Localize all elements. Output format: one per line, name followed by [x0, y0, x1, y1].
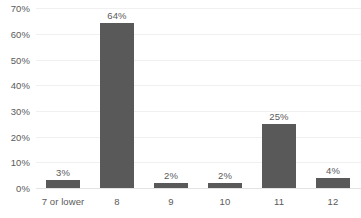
bar-value-label: 64%: [107, 10, 126, 21]
x-axis-category-label: 9: [168, 196, 173, 207]
bar[interactable]: [154, 183, 188, 188]
y-axis-tick-label: 20%: [11, 132, 30, 143]
x-axis-category-label: 11: [274, 196, 284, 207]
y-axis-tick-label: 60%: [11, 29, 30, 40]
bar-value-label: 2%: [164, 170, 178, 181]
x-axis-category-label: 7 or lower: [42, 196, 85, 207]
y-axis: 70% 60% 50% 40% 30% 20% 10% 0%: [0, 0, 34, 218]
bar-group: 64% 8: [90, 0, 144, 218]
bar[interactable]: [316, 178, 350, 188]
bar-group: 25% 11: [252, 0, 306, 218]
x-axis-category-label: 12: [328, 196, 339, 207]
bar-value-label: 2%: [218, 170, 232, 181]
bar[interactable]: [46, 180, 80, 188]
bar-chart: 70% 60% 50% 40% 30% 20% 10% 0% 3% 7 or l…: [0, 0, 361, 218]
bar-group: 3% 7 or lower: [36, 0, 90, 218]
y-axis-tick-label: 70%: [11, 3, 30, 14]
y-axis-tick-label: 40%: [11, 80, 30, 91]
bar-group: 2% 10: [198, 0, 252, 218]
y-axis-tick-label: 0%: [16, 183, 30, 194]
bar-series: 3% 7 or lower 64% 8 2% 9 2% 10 25%: [36, 0, 361, 218]
bar[interactable]: [100, 23, 134, 188]
bar-value-label: 4%: [326, 165, 340, 176]
x-axis-category-label: 8: [114, 196, 119, 207]
bar-group: 4% 12: [306, 0, 360, 218]
x-axis-category-label: 10: [220, 196, 231, 207]
bar[interactable]: [262, 124, 296, 188]
y-axis-tick-label: 10%: [11, 157, 30, 168]
bar[interactable]: [208, 183, 242, 188]
bar-value-label: 25%: [269, 111, 288, 122]
y-axis-tick-label: 50%: [11, 55, 30, 66]
y-axis-tick-label: 30%: [11, 106, 30, 117]
plot-area: 3% 7 or lower 64% 8 2% 9 2% 10 25%: [36, 0, 361, 218]
bar-value-label: 3%: [56, 167, 70, 178]
bar-group: 2% 9: [144, 0, 198, 218]
